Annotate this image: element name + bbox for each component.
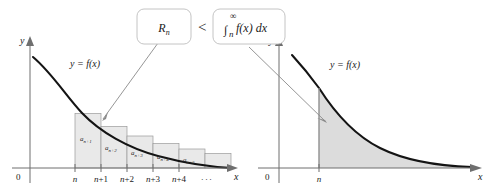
right-chart: y x 0 n y = f(x) — [258, 35, 483, 184]
left-y-axis-arrow — [26, 36, 34, 46]
left-x-axis-label: x — [233, 171, 239, 182]
left-tick-label-n-plus-4: n+4 — [172, 174, 187, 184]
figure-canvas: y x 0 y = f(x) n n+1 n+2 n+3 n+4 ··· an+… — [0, 0, 496, 194]
right-origin-label: 0 — [265, 172, 270, 182]
left-tick-label-n-plus-2: n+2 — [120, 174, 134, 184]
leader-line-rn — [103, 43, 158, 119]
right-x-axis-label: x — [477, 171, 483, 182]
left-tick-label-n-plus-1: n+1 — [94, 174, 108, 184]
left-origin-label: 0 — [16, 172, 21, 182]
integral-test-remainder-figure: y x 0 y = f(x) n n+1 n+2 n+3 n+4 ··· an+… — [0, 0, 496, 194]
integral-upper-limit: ∞ — [230, 11, 236, 21]
right-tick-label-n: n — [317, 174, 322, 184]
callout-group: Rn < ∫ ∞ n f(x) dx — [137, 9, 285, 44]
left-tick-label-n-plus-3: n+3 — [146, 174, 161, 184]
integral-integrand: f(x) dx — [236, 21, 268, 35]
right-shaded-area — [319, 88, 472, 168]
left-tick-label-n: n — [73, 174, 78, 184]
left-tick-label-ellipsis: ··· — [201, 174, 214, 184]
left-tick-labels: n n+1 n+2 n+3 n+4 ··· — [73, 174, 214, 184]
left-chart: y x 0 y = f(x) n n+1 n+2 n+3 n+4 ··· an+… — [12, 35, 239, 184]
left-chart-rectangles — [75, 114, 231, 169]
right-curve-label: y = f(x) — [329, 59, 361, 71]
integral-lower-limit: n — [229, 29, 234, 39]
left-y-axis-label: y — [19, 35, 25, 46]
left-curve-label: y = f(x) — [69, 58, 101, 70]
integral-sign: ∫ — [223, 23, 228, 37]
leader-line-integral — [249, 47, 325, 121]
relation-operator: < — [198, 19, 206, 35]
